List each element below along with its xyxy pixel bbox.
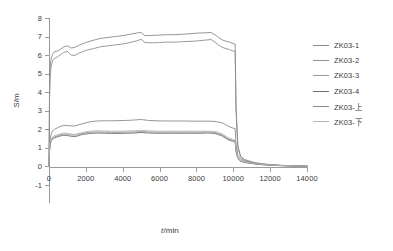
legend-line-swatch [313, 106, 329, 107]
series-canvas [49, 18, 307, 185]
legend-item[interactable]: ZK03-4 [313, 84, 393, 99]
y-tick-label: 4 [22, 88, 42, 97]
x-axis-title-unit: /min [163, 226, 179, 235]
legend-label: ZK03-下 [334, 116, 362, 127]
series-line [49, 39, 307, 166]
y-tick-mark [45, 185, 49, 186]
y-axis-title-unit: /m [12, 93, 21, 102]
legend-item[interactable]: ZK03-上 [313, 99, 393, 114]
legend-item[interactable]: ZK03-3 [313, 68, 393, 83]
series-line [49, 132, 307, 166]
legend-item[interactable]: ZK03-1 [313, 38, 393, 53]
legend-line-swatch [313, 121, 329, 122]
legend-item[interactable]: ZK03-2 [313, 53, 393, 68]
legend-label: ZK03-1 [334, 41, 359, 50]
y-tick-label: 2 [22, 125, 42, 134]
series-line [49, 132, 307, 167]
legend-line-swatch [313, 60, 329, 61]
chart-legend: ZK03-1ZK03-2ZK03-3ZK03-4ZK03-上ZK03-下 [313, 38, 393, 129]
y-tick-label: 1 [22, 143, 42, 152]
y-tick-label: 6 [22, 51, 42, 60]
y-tick-label: 5 [22, 69, 42, 78]
series-line [49, 130, 307, 166]
y-tick-label: 0 [22, 162, 42, 171]
legend-item[interactable]: ZK03-下 [313, 114, 393, 129]
legend-label: ZK03-上 [334, 101, 362, 112]
y-tick-label: 3 [22, 106, 42, 115]
x-axis-title: t/min [0, 226, 340, 235]
legend-line-swatch [313, 75, 329, 76]
legend-label: ZK03-2 [334, 56, 359, 65]
series-line [49, 32, 307, 166]
chart-figure: S/m -1012345678 020004000600080001000012… [0, 0, 393, 251]
y-tick-label: 8 [22, 14, 42, 23]
legend-line-swatch [313, 45, 329, 46]
series-line [49, 120, 307, 167]
plot-area [49, 18, 307, 185]
y-axis-title-variable: S [12, 102, 21, 107]
y-tick-label: 7 [22, 32, 42, 41]
y-axis-title: S/m [12, 93, 21, 108]
x-tick-mark [307, 168, 308, 172]
legend-label: ZK03-3 [334, 71, 359, 80]
legend-line-swatch [313, 91, 329, 92]
legend-label: ZK03-4 [334, 87, 359, 96]
